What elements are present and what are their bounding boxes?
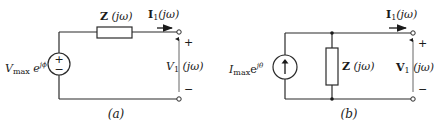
output-voltage-label: V1 (jω)	[395, 61, 434, 75]
output-minus-sign: −	[184, 83, 193, 96]
output-voltage-label: V1 (jω)	[166, 60, 204, 74]
voltage-source-label: Vmax ejϕ	[5, 61, 47, 76]
output-plus-sign: +	[184, 36, 193, 49]
current-label: I1(jω)	[148, 8, 179, 22]
shunt-impedance-resistor-icon	[326, 48, 338, 85]
series-impedance-label: Z (jω)	[100, 10, 133, 23]
current-source-label: Imaxejθ	[228, 62, 264, 77]
series-impedance-resistor-icon	[97, 27, 132, 38]
voltage-source-icon: + −	[48, 53, 70, 76]
output-terminal-top	[411, 31, 415, 35]
output-minus-sign: −	[418, 83, 427, 96]
junction-dot-top	[330, 31, 334, 35]
junction-dot-bottom	[330, 97, 334, 101]
source-minus-sign: −	[54, 63, 63, 76]
circuit-a: + − Vmax ejϕ Z (jω) I1(jω) + − V1 (jω) (…	[5, 8, 204, 121]
caption-a: (a)	[108, 107, 125, 121]
output-terminal-bottom	[411, 97, 415, 101]
shunt-impedance-label: Z (jω)	[342, 60, 375, 73]
circuit-a-wires	[59, 32, 177, 99]
circuit-b: Imaxejθ Z (jω) I1(jω) + − V1 (jω) (b)	[228, 8, 434, 121]
output-terminal-bottom	[177, 97, 181, 101]
current-label: I1(jω)	[386, 8, 417, 22]
caption-b: (b)	[340, 107, 357, 121]
circuit-figure: + − Vmax ejϕ Z (jω) I1(jω) + − V1 (jω) (…	[0, 0, 442, 126]
current-source-icon	[273, 55, 297, 79]
output-terminal-top	[177, 30, 181, 34]
output-plus-sign: +	[418, 37, 427, 50]
